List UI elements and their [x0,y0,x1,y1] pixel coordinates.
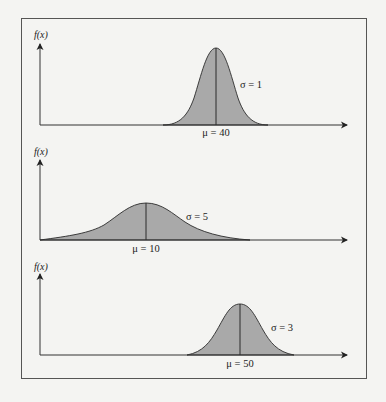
panel-3-sigma-label: σ = 3 [271,323,293,334]
panel-2-sigma-label: σ = 5 [186,212,208,223]
panel-1-sigma-label: σ = 1 [240,80,262,91]
panel-1-y-axis-label: f(x) [34,30,48,40]
panel-3-mu-label: μ = 50 [226,359,253,370]
figure-frame [22,19,367,379]
panel-3 [40,274,347,355]
panel-2-density-area [40,203,250,240]
panel-2-y-axis-label: f(x) [34,147,48,157]
panel-3-y-axis-label: f(x) [34,262,48,272]
panel-2 [40,160,347,240]
panel-1-mu-label: μ = 40 [202,128,229,139]
panel-2-mu-label: μ = 10 [132,244,159,255]
normal-distributions-figure [0,0,386,402]
panel-1 [40,44,347,125]
figure-canvas: f(x) σ = 1 μ = 40 f(x) σ = 5 μ = 10 f(x)… [0,0,386,402]
